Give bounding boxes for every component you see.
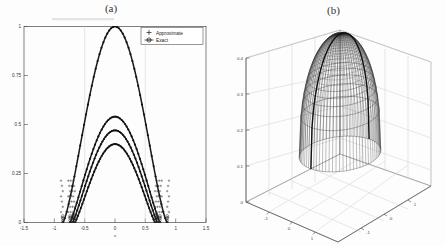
data-marker (124, 150, 126, 152)
data-marker (123, 148, 125, 150)
data-marker (137, 153, 139, 155)
x-axis-ticks-a: -1.5 -1 -0.5 0 0.5 1 1.5 (20, 219, 210, 231)
plus-marker (166, 190, 168, 192)
z-tick-label: 0.4 (237, 56, 244, 61)
data-marker (156, 213, 158, 215)
data-marker (124, 123, 126, 125)
data-marker (78, 211, 80, 213)
plus-marker (167, 200, 169, 202)
data-marker (93, 171, 95, 173)
data-marker (104, 36, 106, 38)
panel-a-plot: 0 0.25 0.5 0.75 1 -1.5 -1 -0.5 0 0.5 (0, 0, 222, 246)
x-axis-b: -1 0 1 (246, 202, 338, 242)
data-marker (151, 215, 153, 217)
data-marker (105, 148, 107, 150)
y-tick-label: 1 (18, 24, 21, 29)
data-marker (73, 175, 75, 177)
data-marker (139, 158, 141, 160)
plus-marker (62, 206, 64, 208)
data-marker (107, 119, 109, 121)
data-marker (138, 178, 140, 180)
data-marker (136, 174, 138, 176)
data-marker (86, 190, 88, 192)
legend-label-exact: Exact (156, 38, 169, 43)
plus-marker (72, 195, 74, 197)
data-marker (135, 171, 137, 173)
data-marker (131, 60, 133, 62)
data-marker (141, 186, 143, 188)
data-marker (131, 135, 133, 137)
plus-marker (67, 195, 69, 197)
data-marker (89, 171, 91, 173)
legend-a[interactable]: Approximate Exact (141, 28, 203, 45)
data-marker (130, 147, 132, 149)
data-marker (78, 204, 80, 206)
data-marker (144, 174, 146, 176)
data-marker (153, 165, 155, 167)
data-marker (94, 158, 96, 160)
panel-a: (a) 0 0.25 0.5 0.75 1 (0, 0, 222, 246)
z-axis-b: 0 0.1 0.2 0.3 0.4 (237, 56, 250, 205)
data-marker (141, 175, 143, 177)
data-marker (129, 158, 131, 160)
plus-marker (159, 206, 161, 208)
data-marker (81, 195, 83, 197)
x-tick-label: -1.5 (20, 226, 28, 231)
data-marker (152, 209, 154, 211)
plus-marker (70, 211, 72, 213)
plus-marker (166, 206, 168, 208)
data-marker (83, 199, 85, 201)
data-marker (90, 178, 92, 180)
data-marker (123, 136, 125, 138)
data-marker (92, 148, 94, 150)
data-marker (85, 114, 87, 116)
data-marker (120, 132, 122, 134)
data-marker (91, 85, 93, 87)
data-marker (122, 33, 124, 35)
data-marker (79, 200, 81, 202)
plus-marker (69, 206, 71, 208)
data-marker (97, 150, 99, 152)
panel-b: (b) (222, 0, 445, 246)
data-marker (133, 68, 135, 70)
y-tick-label-b: 0 (390, 216, 393, 221)
plus-marker (160, 195, 162, 197)
plus-marker (155, 200, 157, 202)
data-marker (91, 153, 93, 155)
plus-marker (168, 211, 170, 213)
data-marker (87, 104, 89, 106)
data-marker (144, 194, 146, 196)
scan-artifact (52, 18, 114, 20)
data-marker (121, 147, 123, 149)
data-marker (104, 150, 106, 152)
data-marker (93, 76, 95, 78)
data-marker (95, 68, 97, 70)
data-marker (95, 167, 97, 169)
data-marker (81, 134, 83, 136)
data-marker (144, 185, 146, 187)
data-marker (142, 168, 144, 170)
data-marker (162, 211, 164, 213)
x-tick-label: 1.5 (203, 226, 210, 231)
data-marker (101, 155, 103, 157)
y-tick-label-b: -1 (366, 230, 370, 235)
data-marker (121, 119, 123, 121)
data-marker (97, 135, 99, 137)
data-marker (106, 134, 108, 136)
data-marker (141, 104, 143, 106)
data-marker (102, 41, 104, 43)
y-tick-label: 0.25 (12, 171, 21, 176)
data-marker (66, 211, 68, 213)
data-marker (120, 29, 122, 31)
data-marker (87, 163, 89, 165)
data-marker (119, 117, 121, 119)
z-tick-label: 0.1 (237, 164, 244, 169)
plus-marker (160, 185, 162, 187)
data-marker (150, 204, 152, 206)
data-marker (72, 213, 74, 215)
data-marker (76, 209, 78, 211)
data-marker (132, 139, 134, 141)
data-marker (81, 185, 83, 187)
data-marker (87, 186, 89, 188)
plus-marker (62, 190, 64, 192)
